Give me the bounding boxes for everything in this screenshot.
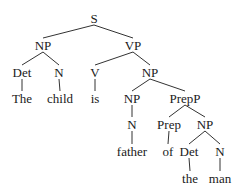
tree-node-n1: N — [54, 66, 63, 79]
tree-edge — [132, 79, 150, 91]
tree-node-father: father — [117, 145, 147, 158]
tree-edge — [189, 131, 205, 144]
tree-edge — [59, 79, 60, 91]
tree-edge — [95, 52, 133, 65]
tree-edge — [150, 79, 185, 91]
tree-edge — [169, 105, 185, 117]
tree-node-det2: Det — [180, 145, 199, 158]
tree-node-v: V — [90, 66, 99, 79]
tree-edge — [94, 25, 133, 38]
tree-node-det1: Det — [13, 66, 32, 79]
tree-node-s: S — [90, 12, 97, 25]
tree-node-np3: NP — [124, 92, 141, 105]
tree-node-np2: NP — [142, 66, 159, 79]
tree-node-prepp: PrepP — [169, 92, 200, 105]
tree-node-np4: NP — [197, 118, 214, 131]
syntax-tree-diagram: SNPVPDetNVNPThechildisNPPrepPNPrepNPfath… — [0, 0, 242, 192]
tree-edge — [43, 25, 94, 38]
tree-edge — [189, 158, 190, 171]
tree-node-child: child — [47, 92, 73, 105]
tree-edges — [0, 0, 242, 192]
tree-edge — [185, 105, 205, 117]
tree-node-prep: Prep — [157, 118, 181, 131]
tree-node-n2: N — [127, 118, 136, 131]
tree-node-the: The — [12, 92, 32, 105]
tree-edge — [205, 131, 220, 144]
tree-edge — [22, 52, 43, 65]
tree-edge — [133, 52, 150, 65]
tree-node-man: man — [209, 172, 231, 185]
tree-node-vp: VP — [125, 39, 142, 52]
tree-node-is: is — [91, 92, 100, 105]
tree-edge — [43, 52, 59, 65]
tree-node-n3: N — [215, 145, 224, 158]
tree-edge — [168, 131, 169, 144]
tree-node-the: the — [182, 172, 198, 185]
tree-node-of: of — [163, 145, 174, 158]
tree-node-np1: NP — [35, 39, 52, 52]
